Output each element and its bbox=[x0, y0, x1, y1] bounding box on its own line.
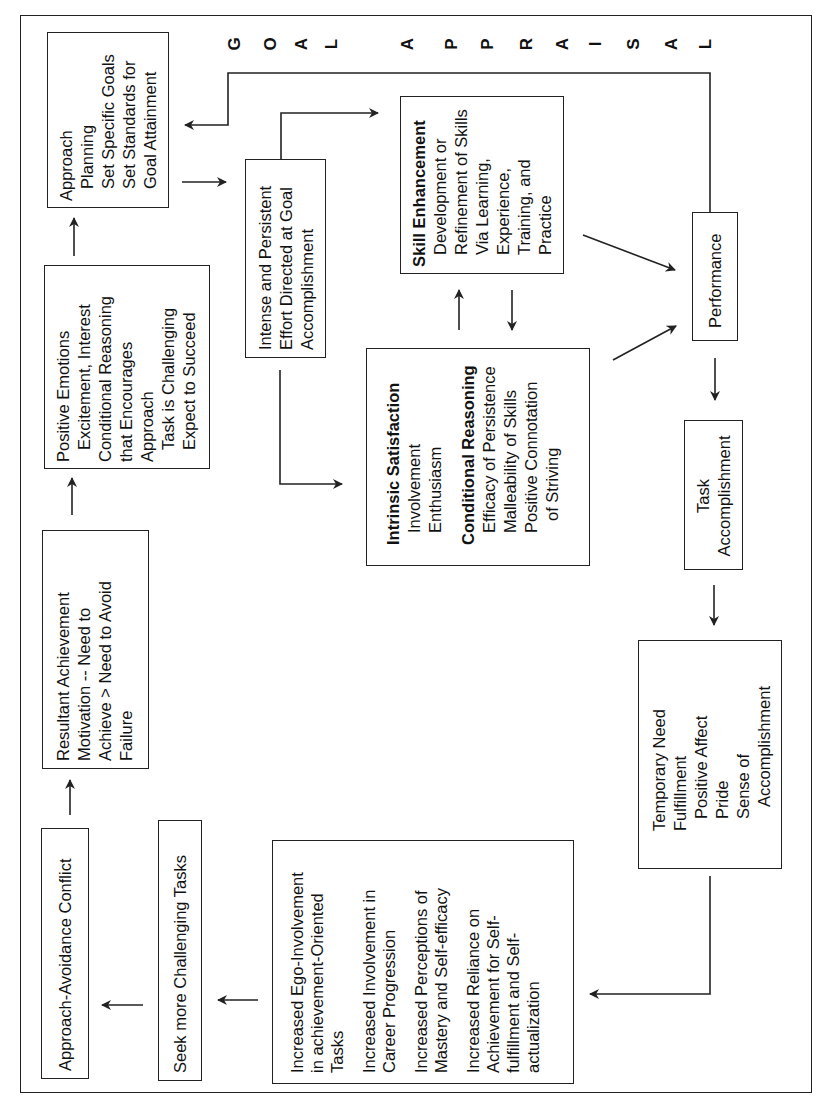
box-line: Motivation -- Need to bbox=[74, 531, 95, 761]
resultant-achievement-box: Resultant Achievement Motivation -- Need… bbox=[42, 530, 149, 769]
box-line: Career Progression bbox=[379, 843, 399, 1073]
box-line: Mastery and Self-efficacy bbox=[431, 843, 451, 1073]
box-line: Failure bbox=[116, 531, 137, 761]
box-line: Via Learning, bbox=[472, 97, 493, 267]
box-line: Increased Perceptions of bbox=[411, 843, 431, 1073]
box-line: Approach bbox=[137, 262, 158, 462]
arrow-skill-to-performance bbox=[583, 235, 675, 270]
box-line: Training, and bbox=[514, 97, 535, 267]
intense-effort-box: Intense and Persistent Effort Directed a… bbox=[245, 159, 326, 358]
positive-emotions-box: Positive Emotions Excitement, Interest C… bbox=[44, 265, 210, 469]
box-line: Achieve > Need to Avoid bbox=[95, 531, 116, 761]
box-line: Task is Challenging bbox=[158, 262, 179, 462]
intrinsic-satisfaction-box: Intrinsic Satisfaction Involvement Enthu… bbox=[366, 348, 590, 566]
box-line: Increased Reliance on bbox=[463, 843, 483, 1073]
box-line: Expect to Succeed bbox=[179, 262, 200, 462]
box-line: Involvement bbox=[404, 345, 425, 545]
approach-planning-box: Approach Planning Set Specific Goals Set… bbox=[47, 32, 169, 208]
box-label: Approach-Avoidance Conflict bbox=[55, 831, 76, 1071]
box-line: Increased Ego-Involvement bbox=[287, 843, 307, 1073]
box-line: Set Standards for bbox=[119, 33, 140, 201]
box-line: Tasks bbox=[327, 843, 347, 1073]
box-heading: Intrinsic Satisfaction bbox=[383, 345, 404, 545]
box-line: Positive Affect bbox=[691, 651, 712, 831]
box-heading: Conditional Reasoning bbox=[458, 345, 479, 545]
increased-outcomes-box: Increased Ego-Involvement in achievement… bbox=[272, 840, 574, 1084]
performance-box: Performance bbox=[692, 212, 738, 341]
box-line: Achievement for Self- bbox=[483, 843, 503, 1073]
arrow-effort-to-intrinsic bbox=[280, 370, 342, 484]
box-line: Practice bbox=[535, 97, 556, 267]
box-line: Development or bbox=[430, 97, 451, 267]
box-line: Positive Emotions bbox=[53, 262, 74, 462]
box-line: Refinement of Skills bbox=[451, 97, 472, 267]
approach-avoidance-box: Approach-Avoidance Conflict bbox=[41, 828, 89, 1079]
arrow-need-to-increased bbox=[590, 876, 710, 994]
box-line: Experience, bbox=[493, 97, 514, 267]
box-line: Malleability of Skills bbox=[500, 345, 521, 545]
skill-enhancement-box: Skill Enhancement Development or Refinem… bbox=[400, 96, 564, 274]
box-line: in achievement-Oriented bbox=[307, 843, 327, 1073]
box-line: of Striving bbox=[542, 345, 563, 545]
box-line: Goal Attainment bbox=[140, 33, 161, 201]
box-line: Excitement, Interest bbox=[74, 262, 95, 462]
box-line: Accomplishment bbox=[297, 160, 318, 350]
box-line: Enthusiasm bbox=[425, 345, 446, 545]
box-heading: Skill Enhancement bbox=[409, 97, 430, 267]
box-label: Performance bbox=[705, 218, 726, 328]
box-line: Task bbox=[693, 426, 714, 566]
box-line: Sense of bbox=[733, 651, 754, 831]
box-line: Accomplishment bbox=[714, 426, 735, 566]
box-line: Temporary Need bbox=[649, 651, 670, 831]
box-line: Fulfillment bbox=[670, 651, 691, 831]
temporary-need-box: Temporary Need Fulfillment Positive Affe… bbox=[638, 640, 782, 869]
task-accomplishment-box: Task Accomplishment bbox=[684, 420, 743, 570]
box-line: that Encourages bbox=[116, 262, 137, 462]
box-line: Conditional Reasoning bbox=[95, 262, 116, 462]
box-line: Resultant Achievement bbox=[53, 531, 74, 761]
arrow-intrinsic-to-performance bbox=[613, 326, 676, 360]
box-line: Planning bbox=[77, 33, 98, 201]
box-line: Intense and Persistent bbox=[255, 160, 276, 350]
box-line: Efficacy of Persistence bbox=[479, 345, 500, 545]
box-line: Effort Directed at Goal bbox=[276, 160, 297, 350]
box-line: Approach bbox=[56, 33, 77, 201]
box-line: fulfillment and Self- bbox=[503, 843, 523, 1073]
seek-challenging-box: Seek more Challenging Tasks bbox=[158, 820, 202, 1081]
arrow-effort-to-skill bbox=[281, 113, 378, 160]
box-line: Positive Connotation bbox=[521, 345, 542, 545]
box-line: Accomplishment bbox=[754, 651, 775, 831]
box-line: actualization bbox=[523, 843, 543, 1073]
box-line: Pride bbox=[712, 651, 733, 831]
box-label: Seek more Challenging Tasks bbox=[170, 823, 191, 1073]
box-line: Increased Involvement in bbox=[359, 843, 379, 1073]
box-line: Set Specific Goals bbox=[98, 33, 119, 201]
